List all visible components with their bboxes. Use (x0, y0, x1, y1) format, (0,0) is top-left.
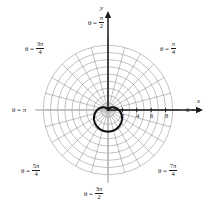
fraction-pi-over-4: π 4 (171, 41, 176, 56)
polar-grid-ray-345 (108, 110, 171, 127)
y-axis-arrowhead (105, 11, 111, 18)
polar-grid-ray-135 (62, 64, 108, 110)
fraction-seven-pi-over-4: 7π 4 (169, 163, 178, 178)
angle-label-theta-zero: θ = 0 (186, 107, 200, 114)
fraction-five-pi-over-4: 5π 4 (32, 163, 41, 178)
x-tick-label-1: 4 (136, 112, 139, 119)
polar-grid-ray-15 (108, 93, 171, 110)
angle-label-pi-theta: θ = (12, 106, 21, 114)
polar-grid-ray-105 (91, 47, 108, 110)
polar-plot-figure (0, 0, 216, 212)
angle-label-three-pi-over-2: θ = 3π 2 (84, 186, 103, 201)
fraction-three-pi-over-2: 3π 2 (95, 186, 104, 201)
angle-label-pi-value: π (23, 106, 27, 114)
polar-grid-ray-165 (45, 93, 108, 110)
fraction-pi-over-2: π 2 (99, 15, 104, 30)
x-tick-label-2: 6 (150, 112, 153, 119)
angle-label-seven-pi-over-4-theta: θ = (158, 167, 167, 175)
polar-grid-ray-45 (108, 64, 154, 110)
fraction-three-pi-over-4: 3π 4 (36, 41, 45, 56)
angle-label-pi-over-4-theta: θ = (160, 45, 169, 53)
angle-label-pi: θ = π (12, 107, 26, 114)
polar-grid-ray-75 (108, 47, 125, 110)
polar-grid-ray-195 (45, 110, 108, 127)
polar-grid-ray-315 (108, 110, 154, 156)
angle-label-theta-zero-value: 0 (197, 106, 201, 114)
y-axis-label: y (100, 4, 103, 12)
angle-label-seven-pi-over-4: θ = 7π 4 (158, 163, 177, 178)
angle-label-three-pi-over-4-theta: θ = (25, 45, 34, 53)
angle-label-pi-over-2: θ = π 2 (88, 15, 104, 30)
x-tick-label-3: 8 (165, 112, 168, 119)
x-tick-label-0: 2 (121, 112, 124, 119)
angle-label-theta-zero-theta: θ = (186, 106, 195, 114)
x-axis-label: x (197, 97, 200, 105)
angle-label-three-pi-over-2-theta: θ = (84, 190, 93, 198)
angle-label-pi-over-4: θ = π 4 (160, 41, 176, 56)
angle-label-pi-over-2-theta: θ = (88, 19, 97, 27)
polar-grid-svg (0, 0, 216, 212)
angle-label-three-pi-over-4: θ = 3π 4 (25, 41, 44, 56)
angle-label-five-pi-over-4-theta: θ = (21, 167, 30, 175)
polar-grid-ray-225 (62, 110, 108, 156)
angle-label-five-pi-over-4: θ = 5π 4 (21, 163, 40, 178)
